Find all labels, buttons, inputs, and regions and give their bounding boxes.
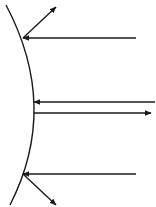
bottom-reflected-ray-arrow [23,174,56,205]
convex-mirror-surface [6,5,34,205]
ray-diagram: Reflection of parallel rays from a conve… [0,0,156,207]
ray-diagram-canvas [0,0,156,207]
top-reflected-ray-arrow [23,7,56,38]
